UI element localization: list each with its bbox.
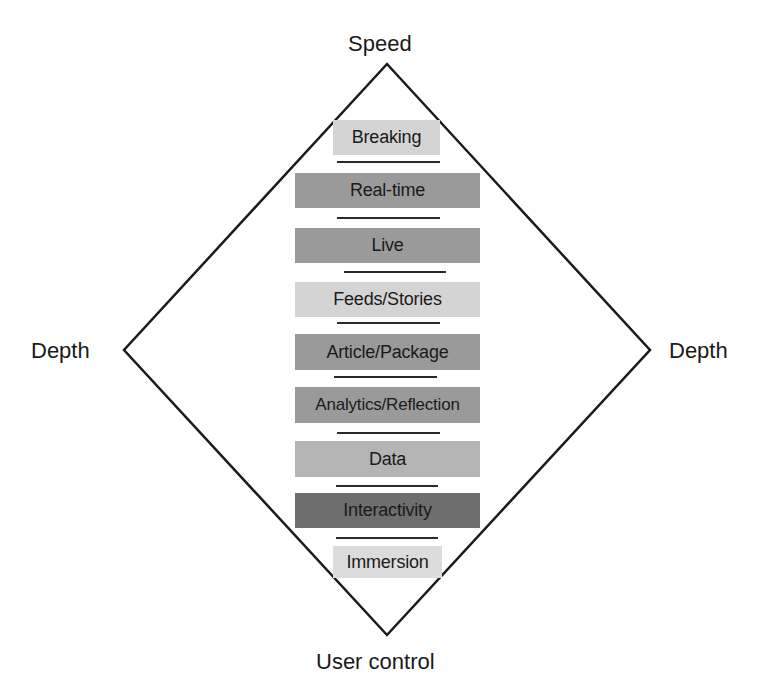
layer-label: Immersion	[346, 552, 428, 573]
layer-label: Breaking	[352, 127, 421, 148]
layer-data: Data	[295, 441, 480, 477]
layer-separator	[337, 322, 440, 324]
layer-immersion: Immersion	[333, 546, 442, 578]
layer-label: Interactivity	[343, 500, 431, 521]
layer-separator	[336, 485, 438, 487]
layer-separator	[337, 217, 440, 219]
layer-separator	[337, 432, 440, 434]
layer-label: Feeds/Stories	[333, 289, 441, 310]
layer-interactivity: Interactivity	[295, 493, 480, 528]
layer-separator	[334, 376, 437, 378]
layer-feeds-stories: Feeds/Stories	[295, 282, 480, 317]
axis-label-left-depth: Depth	[31, 340, 90, 362]
axis-label-right-depth: Depth	[669, 340, 728, 362]
layer-live: Live	[295, 228, 480, 263]
axis-label-top-speed: Speed	[348, 33, 412, 55]
layer-label: Analytics/Reflection	[315, 395, 459, 415]
layer-real-time: Real-time	[295, 173, 480, 208]
layer-analytics-reflection: Analytics/Reflection	[295, 387, 480, 423]
layer-separator	[336, 537, 438, 539]
layer-label: Real-time	[350, 180, 425, 201]
layer-separator	[337, 161, 440, 163]
layer-label: Live	[371, 235, 403, 256]
layer-label: Article/Package	[326, 342, 448, 363]
layer-breaking: Breaking	[333, 120, 440, 155]
layer-separator	[344, 271, 446, 273]
layer-label: Data	[369, 449, 406, 470]
layer-article-package: Article/Package	[295, 334, 480, 370]
axis-label-bottom-user-control: User control	[316, 651, 435, 673]
